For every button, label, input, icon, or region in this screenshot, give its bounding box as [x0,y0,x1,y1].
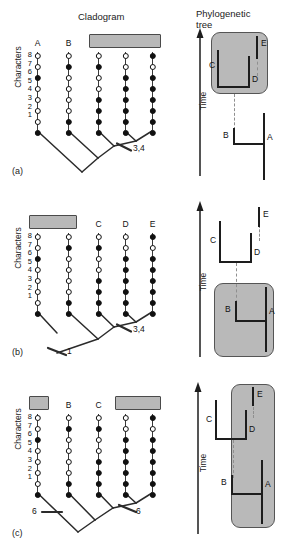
phylo-branch-E-c [252,387,254,406]
phylo-branch-C-c [215,400,217,440]
tick-label-3-4-a: 3,4 [133,143,145,153]
phylo-branch-CD-horizontal-a [217,86,250,88]
phylo-label-D-c: D [249,424,255,434]
panel-c-phylo: Time E C D B A [186,362,281,541]
phylo-dashed-B-a [234,94,235,130]
phylo-label-C-c: C [206,414,212,424]
panel-b: (b) Characters 8 7 6 5 4 3 2 1 A B [0,181,281,361]
phylo-branch-E-a [256,36,258,59]
phylo-branch-C-b [219,221,221,263]
tick-label-3-4-b: 3,4 [133,324,145,334]
panel-c-branches [0,362,186,541]
tick-label-1-b: 1 [67,346,72,356]
phylo-branch-C-a [217,50,219,88]
phylo-branch-BA-horizontal-a [233,143,265,145]
phylo-label-A-a: A [267,132,273,142]
phylo-dashed-B-c [233,440,234,478]
phylo-branch-A-c [261,460,263,524]
highlight-box-de-c [115,396,161,410]
phylo-dashed-B-b [236,263,237,303]
phylo-label-E-c: E [257,389,263,399]
tick-label-6-right-c: 6 [136,506,141,516]
phylo-label-C-a: C [209,60,215,70]
panel-a-branches [0,0,186,180]
phylo-label-E-a: E [261,38,267,48]
phylo-label-E-b: E [263,209,269,219]
phylo-label-A-b: A [269,306,275,316]
panel-c-cladogram: Characters 8 7 6 5 4 3 2 1 A B [0,362,186,541]
phylo-branch-BA-horizontal-c [231,493,263,495]
phylo-label-B-a: B [223,130,229,140]
phylo-branch-CD-horizontal-c [215,438,247,440]
panel-c: (c) Characters 8 7 6 5 4 3 2 1 A B [0,362,281,541]
phylo-branch-A-a [263,113,265,180]
panel-b-phylo: Time E C D B A [186,181,281,361]
panel-b-cladogram: Characters 8 7 6 5 4 3 2 1 A B C [0,181,186,361]
highlight-box-cde-a [89,34,161,48]
phylo-branch-B-c [231,475,233,495]
phylo-branch-D-a [248,56,250,88]
panel-a-cladogram: Characters 8 7 6 5 4 3 2 1 A B [0,0,186,180]
phylo-branch-D-c [245,410,247,440]
phylo-branch-A-b [265,287,267,352]
phylo-dashed-DE-b [259,225,260,241]
phylo-branch-D-b [250,233,252,263]
phylo-label-A-c: A [265,479,271,489]
phylo-label-C-b: C [210,235,216,245]
phylo-label-B-c: B [221,477,227,487]
phylo-label-D-b: D [254,247,260,257]
panel-a: (a) Characters 8 7 6 5 4 3 2 1 A B [0,0,281,180]
phylo-branch-B-b [235,301,237,322]
phylo-branch-CD-horizontal-b [219,261,252,263]
panel-a-phylo: Time E C D B A [186,0,281,180]
panel-b-branches [0,181,186,361]
phylo-highlight-box-a [211,32,268,94]
figure-root: Cladogram Phylogenetic tree (a) Characte… [0,0,281,541]
phylo-label-D-a: D [252,74,258,84]
highlight-box-ab-b [29,215,77,229]
phylo-label-B-b: B [225,304,231,314]
phylo-branch-BA-horizontal-b [235,320,267,322]
phylo-dashed-DE-a [257,56,258,76]
tick-label-6-left-c: 6 [32,506,37,516]
highlight-box-a-c [29,396,49,410]
phylo-branch-E-b [258,207,260,227]
